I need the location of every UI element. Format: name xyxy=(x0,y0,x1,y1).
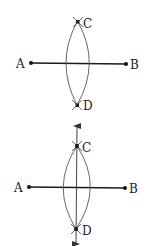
segment-ab xyxy=(29,187,125,188)
segment-ab xyxy=(31,63,126,64)
label-a: A xyxy=(15,57,25,71)
label-c: C xyxy=(83,17,92,31)
point-a-dot xyxy=(29,61,33,65)
point-d-dot xyxy=(76,104,80,108)
figure-1: A B C D xyxy=(15,17,139,113)
label-d: D xyxy=(83,99,93,113)
label-d: D xyxy=(82,224,92,238)
figure-2: A B C D xyxy=(13,126,138,244)
point-c-dot xyxy=(76,20,80,24)
point-d-dot xyxy=(74,227,78,231)
construction-diagram: A B C D A B C D xyxy=(0,0,148,246)
label-a: A xyxy=(13,181,23,195)
point-b-dot xyxy=(124,62,128,66)
label-c: C xyxy=(82,141,91,155)
label-b: B xyxy=(130,58,139,72)
point-a-dot xyxy=(27,185,31,189)
point-c-dot xyxy=(75,144,79,148)
label-b: B xyxy=(129,182,138,196)
perpendicular-bisector xyxy=(76,126,77,244)
point-b-dot xyxy=(123,186,127,190)
